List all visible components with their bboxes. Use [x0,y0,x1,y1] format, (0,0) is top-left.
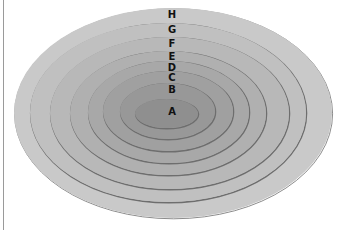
ring-label-b: B [168,84,176,95]
ring-label-a: A [168,106,176,117]
ring-a [135,99,198,128]
ring-label-g: G [168,24,176,35]
ring-label-h: H [168,9,176,20]
ring-label-e: E [169,51,176,62]
ring-label-c: C [168,72,175,83]
nested-ellipse-diagram: HGFEDCBA [0,0,338,230]
ring-label-f: F [169,38,176,49]
